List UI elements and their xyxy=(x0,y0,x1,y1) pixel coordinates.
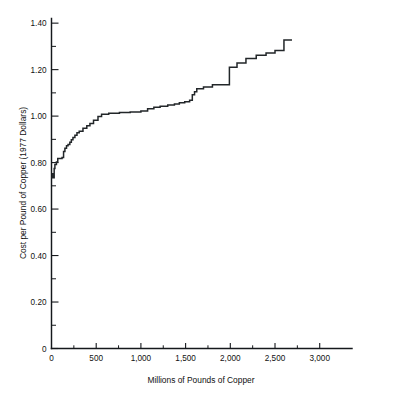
x-tick-label: 3,000 xyxy=(309,354,330,363)
x-tick-label: 2,500 xyxy=(265,354,286,363)
y-tick-label: 1.00 xyxy=(31,112,47,121)
x-tick-label: 0 xyxy=(49,354,54,363)
y-tick-label: 0.60 xyxy=(31,205,47,214)
chart-figure: 00.200.400.600.801.001.201.40 05001,0001… xyxy=(0,0,405,401)
y-tick-label: 1.40 xyxy=(31,19,47,28)
x-axis-tick-labels: 05001,0001,5002,0002,5003,000 xyxy=(49,354,330,363)
y-tick-label: 1.20 xyxy=(31,66,47,75)
y-tick-label: 0 xyxy=(42,345,47,354)
y-tick-label: 0.80 xyxy=(31,159,47,168)
y-tick-label: 0.20 xyxy=(31,298,47,307)
cost-curve-line xyxy=(52,40,292,178)
supply-curve-chart: 00.200.400.600.801.001.201.40 05001,0001… xyxy=(0,0,405,401)
x-tick-label: 1,000 xyxy=(131,354,152,363)
y-axis-title: Cost per Pound of Copper (1977 Dollars) xyxy=(18,107,28,259)
x-tick-label: 1,500 xyxy=(175,354,196,363)
y-axis-tick-labels: 00.200.400.600.801.001.201.40 xyxy=(31,19,47,353)
x-tick-label: 500 xyxy=(89,354,103,363)
y-tick-label: 0.40 xyxy=(31,252,47,261)
x-tick-label: 2,000 xyxy=(220,354,241,363)
x-axis-title: Millions of Pounds of Copper xyxy=(147,375,254,385)
